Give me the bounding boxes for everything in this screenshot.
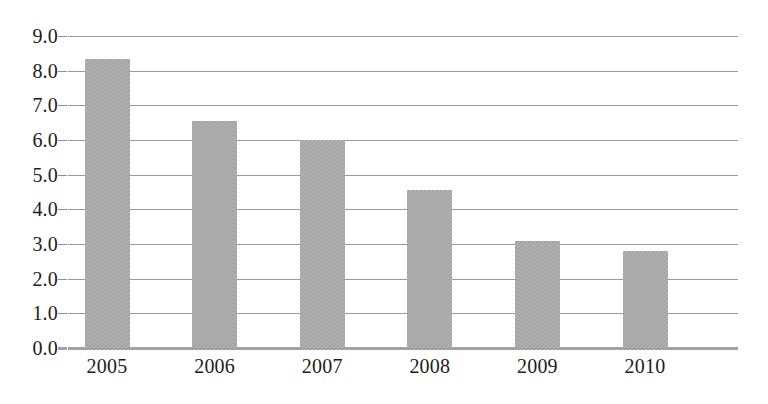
bar xyxy=(515,241,560,348)
bar xyxy=(192,121,237,348)
x-axis-tick-label: 2006 xyxy=(194,356,235,376)
y-axis-tick xyxy=(58,313,67,314)
gridline xyxy=(68,36,738,37)
bar xyxy=(300,140,345,348)
bar xyxy=(623,251,668,348)
y-axis-tick-label: 7.0 xyxy=(0,95,58,115)
y-axis-tick xyxy=(58,105,67,106)
y-axis-tick-label: 0.0 xyxy=(0,338,58,358)
y-axis-tick-label: 3.0 xyxy=(0,234,58,254)
x-axis-tick-label: 2010 xyxy=(625,356,666,376)
y-axis: 9.08.07.06.05.04.03.02.01.00.0 xyxy=(0,0,58,404)
y-axis-tick xyxy=(58,140,67,141)
gridline xyxy=(68,105,738,106)
y-axis-tick-label: 6.0 xyxy=(0,130,58,150)
bar-chart: 9.08.07.06.05.04.03.02.01.00.0 200520062… xyxy=(0,0,768,404)
y-axis-tick xyxy=(58,347,67,350)
gridline xyxy=(68,175,738,176)
y-axis-tick-label: 5.0 xyxy=(0,165,58,185)
bar xyxy=(407,190,452,348)
bar xyxy=(85,59,130,348)
y-axis-tick-label: 9.0 xyxy=(0,26,58,46)
y-axis-tick-label: 4.0 xyxy=(0,199,58,219)
y-axis-tick-label: 1.0 xyxy=(0,303,58,323)
x-axis-tick-label: 2007 xyxy=(302,356,343,376)
y-axis-tick xyxy=(58,279,67,280)
y-axis-tick xyxy=(58,175,67,176)
x-axis-tick-label: 2008 xyxy=(409,356,450,376)
x-axis-tick-label: 2009 xyxy=(517,356,558,376)
y-axis-tick-label: 2.0 xyxy=(0,269,58,289)
plot-area xyxy=(68,36,738,348)
y-axis-tick xyxy=(58,36,67,37)
gridline xyxy=(68,71,738,72)
y-axis-tick xyxy=(58,244,67,245)
y-axis-tick xyxy=(58,71,67,72)
y-axis-tick-label: 8.0 xyxy=(0,61,58,81)
x-axis: 200520062007200820092010 xyxy=(68,352,738,392)
x-axis-tick-label: 2005 xyxy=(87,356,128,376)
gridline xyxy=(68,209,738,210)
gridline xyxy=(68,140,738,141)
gridline xyxy=(68,244,738,245)
y-axis-tick xyxy=(58,209,67,210)
